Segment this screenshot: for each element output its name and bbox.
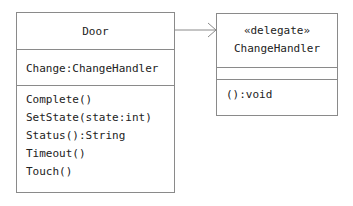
operation: Status():String: [26, 129, 125, 142]
class-changehandler[interactable]: «delegate» ChangeHandler ():void: [216, 13, 338, 116]
operation: SetState(state:int): [26, 111, 152, 124]
class-door[interactable]: Door Change:ChangeHandler Complete() Set…: [16, 12, 175, 193]
divider: [17, 49, 174, 50]
stereotype: «delegate»: [217, 24, 337, 37]
operation: Complete(): [26, 93, 92, 106]
operation: Touch(): [26, 165, 72, 178]
operation: Timeout(): [26, 147, 86, 160]
divider: [217, 79, 337, 80]
operation: ():void: [226, 88, 272, 101]
class-name: ChangeHandler: [217, 42, 337, 55]
divider: [217, 67, 337, 68]
attribute: Change:ChangeHandler: [26, 62, 158, 75]
class-name: Door: [17, 25, 174, 38]
divider: [17, 85, 174, 86]
